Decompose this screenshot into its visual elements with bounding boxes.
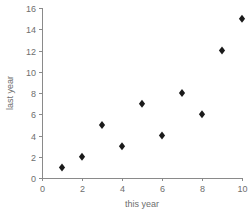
x-tick-label: 4 (120, 184, 125, 194)
axes-group (42, 8, 242, 179)
data-points-group (59, 15, 245, 172)
y-tick-label: 12 (26, 47, 36, 57)
scatter-plot-figure: 0246810 0246810121416 this year last yea… (0, 0, 251, 214)
x-axis-ticks: 0246810 (40, 178, 248, 194)
data-point-marker (139, 100, 145, 108)
x-tick-label: 2 (80, 184, 85, 194)
x-tick-label: 6 (160, 184, 165, 194)
data-point-marker (179, 89, 185, 97)
y-tick-label: 0 (31, 174, 36, 184)
data-point-marker (59, 163, 65, 171)
x-tick-label: 10 (237, 184, 247, 194)
y-tick-label: 14 (26, 25, 36, 35)
y-tick-label: 4 (31, 132, 36, 142)
data-point-marker (79, 153, 85, 161)
y-axis-title: last year (5, 76, 15, 110)
data-point-marker (219, 47, 225, 55)
y-axis-ticks: 0246810121416 (26, 4, 42, 184)
y-tick-label: 10 (26, 68, 36, 78)
x-tick-label: 8 (200, 184, 205, 194)
y-tick-label: 6 (31, 110, 36, 120)
data-point-marker (99, 121, 105, 129)
x-axis-title: this year (125, 199, 159, 209)
data-point-marker (159, 132, 165, 140)
data-point-marker (119, 142, 125, 150)
plot-canvas: 0246810 0246810121416 this year last yea… (0, 0, 251, 214)
y-tick-label: 8 (31, 89, 36, 99)
data-point-marker (199, 110, 205, 118)
data-point-marker (239, 15, 245, 23)
y-tick-label: 2 (31, 153, 36, 163)
x-tick-label: 0 (40, 184, 45, 194)
y-tick-label: 16 (26, 4, 36, 14)
